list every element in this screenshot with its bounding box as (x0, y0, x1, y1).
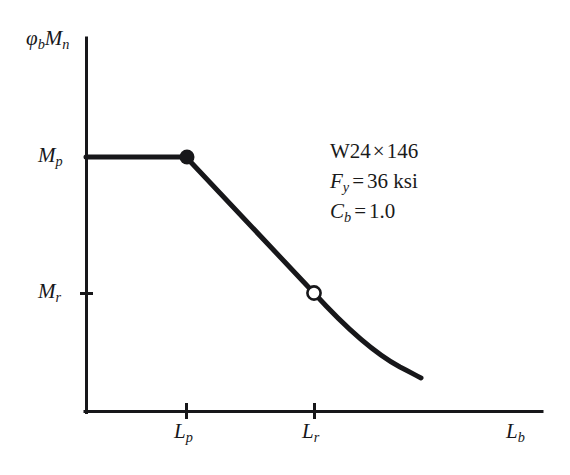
x-tick-label-lp: Lp (174, 421, 193, 444)
fy-equals: = (349, 169, 367, 193)
lp-base: L (174, 419, 186, 443)
cb-equals: = (351, 199, 369, 223)
mp-sub: p (56, 153, 63, 169)
annotation-line-section: W24×146 (330, 136, 418, 166)
y-axis-title: φbMn (26, 28, 69, 51)
chart-canvas (0, 0, 570, 475)
annotation-line-fy: Fy=36 ksi (330, 166, 418, 196)
y-axis-phi: φ (26, 26, 38, 50)
y-axis-phi-sub: b (38, 36, 45, 52)
y-tick-label-mp: Mp (38, 145, 63, 168)
mr-base: M (38, 279, 56, 303)
y-axis-m: M (45, 26, 63, 50)
mr-sub: r (56, 289, 62, 305)
y-axis-m-sub: n (62, 36, 69, 52)
section-designation: W24 (330, 139, 371, 163)
y-tick-label-mr: Mr (38, 281, 61, 304)
times-symbol: × (371, 139, 387, 163)
section-weight: 146 (387, 139, 419, 163)
lp-sub: p (186, 429, 193, 445)
cb-var: C (330, 199, 344, 223)
x-axis-title: Lb (506, 421, 525, 444)
x-axis-l: L (506, 419, 518, 443)
fy-value: 36 (367, 169, 388, 193)
annotation-line-cb: Cb=1.0 (330, 196, 418, 226)
lr-base: L (302, 419, 314, 443)
lr-open-marker (307, 286, 320, 299)
fy-unit: ksi (393, 169, 418, 193)
cb-value: 1.0 (369, 199, 395, 223)
lp-filled-marker (180, 150, 195, 165)
mp-base: M (38, 143, 56, 167)
x-tick-label-lr: Lr (302, 421, 319, 444)
x-axis-l-sub: b (518, 429, 525, 445)
lr-sub: r (314, 429, 320, 445)
fy-var: F (330, 169, 343, 193)
beam-capacity-figure: φbMn Mp Mr Lp Lr Lb W24×146 Fy=36 ksi Cb… (0, 0, 570, 475)
section-annotation: W24×146 Fy=36 ksi Cb=1.0 (330, 136, 418, 226)
